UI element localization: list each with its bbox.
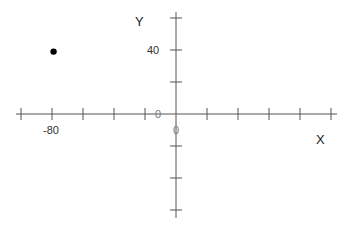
data-point — [50, 48, 56, 54]
coordinate-plane — [0, 0, 354, 227]
x-tick-label-0: 0 — [173, 124, 179, 136]
x-axis-label: X — [316, 133, 325, 147]
y-tick-label-40: 40 — [147, 44, 159, 56]
x-tick-label-neg80: -80 — [43, 124, 59, 136]
axes — [16, 12, 337, 218]
y-tick-label-0: 0 — [155, 108, 161, 120]
y-axis-label: Y — [135, 15, 144, 29]
data-points — [50, 48, 56, 54]
